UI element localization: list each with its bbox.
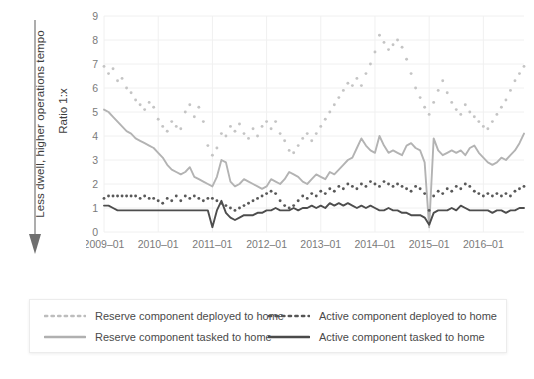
y-tick-label: 8: [92, 34, 98, 46]
legend-swatch-active-deployed: [268, 311, 310, 321]
legend-label: Active component tasked to home: [319, 331, 485, 343]
y-tick-label: 7: [92, 58, 98, 70]
series-line: [104, 201, 524, 227]
down-arrow-icon: [28, 20, 42, 256]
plot-area: 0123456789 2009–012010–012011–012012–012…: [86, 10, 530, 260]
legend-item[interactable]: Reserve component tasked to home: [44, 331, 268, 343]
y-axis-title: Ratio 1:x: [57, 66, 69, 156]
data-series: [103, 34, 526, 227]
x-tick-label: 2010–01: [138, 238, 179, 250]
chart-svg: 0123456789 2009–012010–012011–012012–012…: [86, 10, 530, 260]
legend-item[interactable]: Reserve component deployed to home: [44, 310, 268, 322]
x-tick-label: 2016–01: [463, 238, 504, 250]
legend-column-right: Active component deployed to home Active…: [268, 310, 492, 343]
y-tick-label: 9: [92, 10, 98, 22]
legend-label: Reserve component deployed to home: [95, 310, 284, 322]
y-tick-label: 5: [92, 106, 98, 118]
x-axis-ticks: 2009–012010–012011–012012–012013–012014–…: [86, 238, 504, 250]
legend-item[interactable]: Active component tasked to home: [268, 331, 492, 343]
legend-label: Reserve component tasked to home: [95, 331, 272, 343]
y-tick-label: 2: [92, 178, 98, 190]
series-dotted: [103, 34, 526, 157]
legend-label: Active component deployed to home: [319, 310, 497, 322]
y-tick-label: 4: [92, 130, 98, 142]
x-tick-label: 2011–01: [192, 238, 232, 250]
legend-column-left: Reserve component deployed to home Reser…: [44, 310, 268, 343]
legend-swatch-reserve-deployed: [44, 311, 86, 321]
x-tick-label: 2014–01: [355, 238, 396, 250]
legend-item[interactable]: Active component deployed to home: [268, 310, 492, 322]
chart-legend: Reserve component deployed to home Reser…: [29, 299, 507, 353]
y-tick-label: 0: [92, 226, 98, 238]
y-axis-ticks: 0123456789: [92, 10, 98, 238]
x-tick-label: 2015–01: [409, 238, 450, 250]
x-tick-label: 2012–01: [246, 238, 287, 250]
y-tick-label: 3: [92, 154, 98, 166]
x-tick-label: 2009–01: [86, 238, 125, 250]
legend-swatch-reserve-tasked: [44, 332, 86, 342]
x-tick-label: 2013–01: [300, 238, 341, 250]
legend-swatch-active-tasked: [268, 332, 310, 342]
y-tick-label: 1: [92, 202, 98, 214]
y-tick-label: 6: [92, 82, 98, 94]
chart-page: Less dwell, higher operations tempo Rati…: [0, 0, 534, 379]
